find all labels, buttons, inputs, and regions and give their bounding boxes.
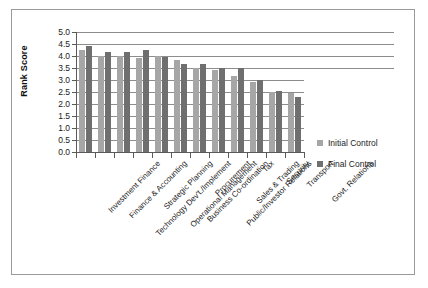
bar-groups: [76, 32, 304, 152]
bar-initial-control: [269, 92, 275, 152]
bar-final-control: [105, 52, 111, 152]
bar-group: [76, 32, 95, 152]
chart-legend: Initial Control Final Control: [317, 138, 378, 180]
bar-group: [152, 32, 171, 152]
x-tick-mark: [285, 153, 286, 158]
y-tick-mark: [72, 80, 77, 81]
y-tick-label: 4.0: [36, 52, 70, 61]
bar-initial-control: [174, 60, 180, 152]
chart-frame: Rank Score 5.04.54.03.53.02.52.01.51.00.…: [11, 9, 415, 275]
x-tick-mark: [76, 153, 77, 158]
y-tick-mark: [72, 104, 77, 105]
bar-initial-control: [79, 50, 85, 152]
bar-final-control: [219, 68, 225, 152]
y-tick-mark: [72, 140, 77, 141]
y-tick-label: 5.0: [36, 28, 70, 37]
y-axis-tick-labels: 5.04.54.03.53.02.52.01.51.00.50.0: [34, 32, 70, 152]
legend-swatch-icon-initial: [317, 140, 323, 146]
bar-group: [190, 32, 209, 152]
x-tick-mark: [190, 153, 191, 158]
x-tick-mark: [247, 153, 248, 158]
x-tick-mark: [95, 153, 96, 158]
bar-initial-control: [288, 93, 294, 152]
y-tick-label: 0.5: [36, 136, 70, 145]
x-tick-mark: [209, 153, 210, 158]
bar-initial-control: [117, 56, 123, 152]
bar-initial-control: [98, 56, 104, 152]
bar-final-control: [181, 64, 187, 152]
y-tick-label: 3.5: [36, 64, 70, 73]
y-tick-label: 0.0: [36, 148, 70, 157]
bar-initial-control: [250, 82, 256, 152]
bar-final-control: [257, 80, 263, 152]
x-axis-category-labels: Investment FinanceFinance & AccountingTe…: [76, 159, 305, 259]
y-tick-label: 4.5: [36, 40, 70, 49]
y-tick-label: 3.0: [36, 76, 70, 85]
y-tick-label: 1.5: [36, 112, 70, 121]
bar-initial-control: [212, 70, 218, 152]
x-tick-mark: [228, 153, 229, 158]
y-tick-mark: [72, 68, 77, 69]
y-tick-mark: [72, 92, 77, 93]
y-tick-mark: [72, 128, 77, 129]
legend-swatch-icon-final: [317, 161, 323, 167]
bar-group: [171, 32, 190, 152]
x-tick-mark: [114, 153, 115, 158]
plot-area: [76, 32, 304, 152]
bar-final-control: [162, 57, 168, 152]
bar-initial-control: [155, 56, 161, 152]
bar-initial-control: [231, 76, 237, 152]
x-tick-mark: [171, 153, 172, 158]
bar-group: [228, 32, 247, 152]
legend-label-final: Final Control: [328, 159, 376, 169]
y-tick-label: 1.0: [36, 124, 70, 133]
y-axis-title: Rank Score: [19, 36, 29, 106]
bar-group: [266, 32, 285, 152]
y-tick-mark: [72, 44, 77, 45]
bar-final-control: [200, 64, 206, 152]
y-tick-mark: [72, 56, 77, 57]
x-tick-mark: [133, 153, 134, 158]
bar-final-control: [238, 68, 244, 152]
y-tick-mark: [72, 32, 77, 33]
legend-label-initial: Initial Control: [328, 138, 378, 148]
bar-group: [133, 32, 152, 152]
bar-group: [114, 32, 133, 152]
bar-initial-control: [193, 68, 199, 152]
x-tick-mark: [304, 153, 305, 158]
y-tick-mark: [72, 116, 77, 117]
bar-final-control: [124, 52, 130, 152]
bar-final-control: [86, 46, 92, 152]
bar-group: [95, 32, 114, 152]
x-tick-mark: [152, 153, 153, 158]
bar-final-control: [276, 91, 282, 152]
legend-item-initial-control: Initial Control: [317, 138, 378, 148]
bar-final-control: [143, 50, 149, 152]
legend-item-final-control: Final Control: [317, 159, 378, 169]
bar-initial-control: [136, 58, 142, 152]
bar-group: [209, 32, 228, 152]
y-tick-label: 2.0: [36, 100, 70, 109]
bar-final-control: [295, 97, 301, 152]
y-tick-label: 2.5: [36, 88, 70, 97]
x-tick-mark: [266, 153, 267, 158]
bar-group: [285, 32, 304, 152]
bar-group: [247, 32, 266, 152]
